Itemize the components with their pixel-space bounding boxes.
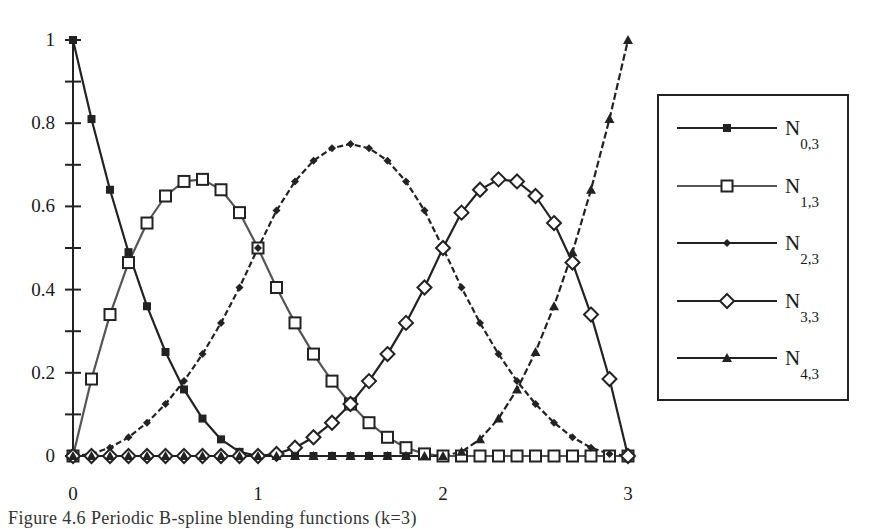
- marker-open-square: [271, 282, 282, 293]
- marker-open-square: [364, 417, 375, 428]
- marker-open-square: [105, 309, 116, 320]
- x-tick-label: 0: [68, 483, 78, 504]
- marker-open-square: [475, 451, 486, 462]
- marker-open-diamond: [381, 347, 395, 361]
- marker-open-square: [512, 451, 523, 462]
- x-tick-label: 3: [623, 483, 633, 504]
- marker-open-square: [530, 451, 541, 462]
- x-tick-label: 2: [438, 483, 448, 504]
- marker-filled-square: [162, 348, 170, 356]
- y-tick-label: 0.8: [31, 112, 55, 133]
- marker-filled-square: [88, 115, 96, 123]
- legend: N0,3N1,3N2,3N3,3N4,3: [658, 95, 848, 400]
- plot-area: [66, 35, 635, 463]
- marker-filled-diamond: [236, 284, 244, 292]
- marker-open-diamond: [418, 281, 432, 295]
- marker-open-square: [123, 257, 134, 268]
- marker-open-square: [160, 191, 171, 202]
- marker-filled-diamond: [347, 140, 355, 148]
- marker-open-square: [290, 317, 301, 328]
- marker-filled-square: [723, 124, 731, 132]
- marker-filled-square: [180, 385, 188, 393]
- marker-filled-diamond: [328, 144, 336, 152]
- axes: 00.20.40.60.810123: [31, 29, 633, 504]
- marker-open-square: [197, 174, 208, 185]
- series-line: [73, 40, 628, 456]
- y-tick-label: 0.2: [31, 362, 55, 383]
- marker-open-diamond: [436, 241, 450, 255]
- figure-caption: Figure 4.6 Periodic B-spline blending fu…: [8, 508, 417, 529]
- marker-open-square: [549, 451, 560, 462]
- marker-filled-square: [199, 415, 207, 423]
- marker-open-square: [567, 451, 578, 462]
- legend-box: [658, 95, 848, 400]
- marker-filled-diamond: [569, 433, 577, 441]
- series-line: [73, 40, 628, 456]
- marker-filled-square: [217, 435, 225, 443]
- marker-open-diamond: [603, 372, 617, 386]
- marker-open-square: [382, 432, 393, 443]
- y-tick-label: 0.6: [31, 195, 55, 216]
- marker-open-square: [216, 184, 227, 195]
- marker-open-diamond: [399, 316, 413, 330]
- marker-open-diamond: [492, 172, 506, 186]
- marker-filled-triangle: [531, 347, 541, 356]
- marker-open-square: [234, 207, 245, 218]
- marker-open-square: [327, 376, 338, 387]
- marker-filled-square: [125, 248, 133, 256]
- marker-filled-square: [69, 36, 77, 44]
- marker-filled-triangle: [586, 185, 596, 194]
- marker-open-square: [86, 374, 97, 385]
- marker-filled-square: [143, 302, 151, 310]
- marker-open-square: [142, 218, 153, 229]
- marker-filled-square: [106, 186, 114, 194]
- y-tick-label: 1: [46, 29, 56, 50]
- marker-open-square: [308, 349, 319, 360]
- marker-filled-triangle: [605, 114, 615, 123]
- marker-filled-triangle: [549, 301, 559, 310]
- series-4-3: [73, 40, 628, 456]
- marker-open-square: [722, 181, 733, 192]
- marker-filled-diamond: [458, 284, 466, 292]
- y-tick-label: 0.4: [31, 279, 55, 300]
- marker-open-square: [586, 451, 597, 462]
- y-tick-label: 0: [46, 445, 56, 466]
- x-tick-label: 1: [253, 483, 263, 504]
- marker-open-square: [179, 176, 190, 187]
- marker-open-diamond: [547, 216, 561, 230]
- marker-open-diamond: [584, 308, 598, 322]
- marker-filled-triangle: [623, 35, 633, 44]
- series-0-3: [73, 40, 628, 456]
- marker-open-square: [493, 451, 504, 462]
- marker-filled-triangle: [568, 247, 578, 256]
